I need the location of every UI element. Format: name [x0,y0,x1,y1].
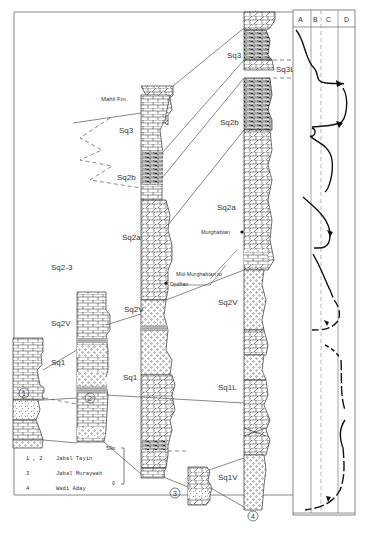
curve-header-a: A [298,16,303,23]
label-sq2v-col3: Sq2V [124,305,144,314]
label-sq1v: Sq1V [218,473,238,482]
label-sq3L: Sq3L [276,65,295,74]
label-sq2v-col4: Sq2V [218,298,238,307]
legend-key-1: 1 , 2 [26,455,43,462]
label-mahil-fm: Mahil Fm. [101,96,128,102]
annotation-djulfian: Djulfian [170,281,188,287]
legend-name-2: Jabal Muraywah [56,470,102,477]
legend-key-3: 4 [26,485,30,492]
column-3b [188,467,212,505]
column-numbers: 1 2 3 4 [19,388,258,521]
curve-header-b: B [313,16,318,23]
column-4 [244,12,275,510]
legend-name-3: Wadi Aday [56,485,86,492]
correlation-diagram: Mahil Fm. Sq3 Sq2b Sq2a Sq2-3 Sq2V Sq2V … [0,0,366,533]
label-sq1L: Sq1L [218,383,237,392]
scale-bar-top: 50m [106,446,115,452]
label-sq2a-col4: Sq2a [217,203,236,212]
label-sq2b-col4: Sq2b [220,118,239,127]
label-sq2a-col3: Sq2a [122,233,141,242]
label-sq2-3: Sq2-3 [51,263,73,272]
scale-bar-bottom: 0 [112,481,115,487]
legend-name-1: Jabal Tayin [56,455,92,462]
label-sq2v-col1: Sq2V [51,319,71,328]
djulfian-marker [164,281,167,284]
annotation-murghabian: Murghabian [201,229,230,235]
label-sq1-col1: Sq1 [51,358,66,367]
curve-panel-frame [293,10,355,515]
scale-bar: 50m 0 [106,446,124,487]
label-sq3-col3: Sq3 [119,126,134,135]
column-number-2: 2 [88,395,92,402]
label-sq3-col4: Sq3 [227,51,242,60]
column-1 [13,338,44,448]
column-number-3: 3 [173,490,177,497]
curve-header-c: C [326,16,331,23]
annotation-mid-murghabian: Mid-Murghabian to [176,271,222,277]
column-number-4: 4 [251,513,255,520]
murghabian-marker [240,230,243,233]
curve-header-d: D [344,16,349,23]
legend-key-2: 3 [26,470,29,477]
column-number-1: 1 [22,390,26,397]
column-2 [77,292,110,442]
curve-panel: A B C D [293,10,355,515]
legend: 1 , 2 Jabal Tayin 3 Jabal Muraywah 4 Wad… [26,455,102,492]
label-sq2b-col3: Sq2b [117,173,136,182]
label-sq1-col3: Sq1 [123,373,138,382]
